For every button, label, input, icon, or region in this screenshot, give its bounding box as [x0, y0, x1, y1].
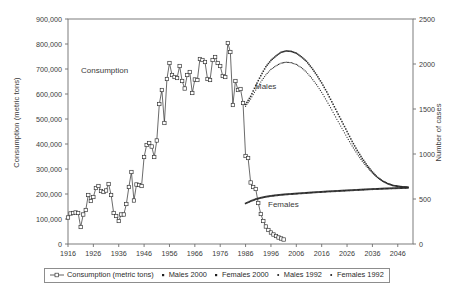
data-point-marker — [298, 65, 299, 66]
legend-item[interactable]: Females 1992 — [329, 271, 384, 279]
data-point-marker — [362, 189, 363, 190]
data-point-marker — [354, 145, 356, 147]
data-point-marker — [250, 201, 251, 202]
data-point-marker — [269, 70, 270, 71]
data-point-marker — [327, 191, 328, 192]
data-point-marker — [398, 188, 399, 189]
data-point-marker — [301, 67, 302, 68]
data-point-marker — [224, 75, 227, 78]
data-point-marker — [245, 104, 247, 106]
data-point-marker — [109, 193, 112, 196]
small-filled-square-marker — [161, 271, 166, 279]
data-point-marker — [334, 114, 335, 115]
chart-legend: Consumption (metric tons)Males 2000Femal… — [44, 268, 390, 283]
data-point-marker — [282, 238, 285, 241]
data-point-marker — [323, 87, 325, 89]
data-point-marker — [350, 190, 351, 191]
data-point-marker — [272, 68, 273, 69]
data-point-marker — [384, 182, 385, 183]
data-point-marker — [317, 192, 318, 193]
data-point-marker — [360, 190, 361, 191]
y-axis-left-tick-label: 900,000 — [0, 15, 62, 24]
data-point-marker — [299, 66, 300, 67]
data-point-marker — [251, 96, 252, 97]
data-point-marker — [391, 184, 392, 185]
data-point-marker — [321, 92, 322, 93]
data-point-marker — [379, 179, 380, 180]
data-point-marker — [358, 190, 359, 191]
data-point-marker — [191, 91, 194, 94]
legend-item[interactable]: Consumption (metric tons) — [50, 271, 154, 279]
data-point-marker — [398, 185, 399, 186]
data-point-marker — [89, 199, 92, 202]
data-point-marker — [350, 138, 352, 140]
line-open-square-marker — [50, 271, 64, 279]
data-point-marker — [322, 84, 324, 86]
data-point-marker — [369, 170, 370, 171]
data-point-marker — [253, 94, 254, 95]
data-point-marker — [251, 200, 252, 201]
data-point-marker — [313, 192, 314, 193]
data-point-marker — [275, 65, 276, 66]
data-point-marker — [254, 187, 257, 190]
data-point-marker — [339, 123, 340, 124]
data-point-marker — [310, 192, 311, 193]
data-point-marker — [400, 186, 401, 187]
data-point-marker — [335, 191, 336, 192]
data-point-marker — [390, 188, 391, 189]
data-point-marker — [348, 139, 349, 140]
data-point-marker — [340, 125, 341, 126]
data-point-marker — [336, 111, 338, 113]
data-point-marker — [364, 164, 365, 165]
data-point-marker — [352, 145, 353, 146]
data-point-marker — [117, 219, 120, 222]
data-point-marker — [377, 177, 378, 178]
data-point-marker — [324, 96, 325, 97]
data-point-marker — [348, 190, 349, 191]
data-point-marker — [66, 216, 69, 219]
data-point-marker — [284, 62, 285, 63]
legend-item[interactable]: Males 1992 — [276, 271, 322, 279]
data-point-marker — [357, 153, 358, 154]
data-point-marker — [298, 193, 299, 194]
data-point-marker — [377, 189, 378, 190]
data-point-marker — [358, 155, 359, 156]
data-point-marker — [319, 88, 320, 89]
data-point-marker — [317, 86, 318, 87]
data-point-marker — [265, 66, 267, 68]
data-point-marker — [356, 150, 358, 152]
data-point-marker — [226, 41, 229, 44]
data-point-marker — [355, 147, 357, 149]
plot-frame — [68, 19, 413, 244]
data-point-marker — [311, 67, 313, 69]
data-point-marker — [345, 134, 346, 135]
data-point-marker — [326, 91, 328, 93]
data-point-marker — [395, 188, 396, 189]
data-point-marker — [365, 189, 366, 190]
data-point-marker — [332, 112, 333, 113]
data-point-marker — [84, 208, 87, 211]
data-point-marker — [316, 84, 317, 85]
legend-item[interactable]: Females 2000 — [214, 271, 269, 279]
data-point-marker — [387, 188, 388, 189]
data-point-marker — [291, 194, 292, 195]
data-point-marker — [273, 195, 274, 196]
data-point-marker — [256, 199, 257, 200]
data-point-marker — [278, 64, 279, 65]
data-point-marker — [406, 188, 407, 189]
data-point-marker — [383, 188, 384, 189]
data-point-marker — [326, 100, 327, 101]
data-point-marker — [344, 190, 345, 191]
data-point-marker — [341, 128, 342, 129]
data-point-marker — [383, 181, 384, 182]
data-point-marker — [364, 161, 366, 163]
data-point-marker — [312, 192, 313, 193]
data-point-marker — [331, 191, 332, 192]
legend-item[interactable]: Males 2000 — [161, 271, 207, 279]
data-point-marker — [294, 63, 295, 64]
males-annotation: Males — [255, 82, 276, 91]
data-point-marker — [245, 203, 246, 204]
data-point-marker — [381, 189, 382, 190]
data-point-marker — [180, 79, 183, 82]
data-point-marker — [368, 167, 370, 169]
